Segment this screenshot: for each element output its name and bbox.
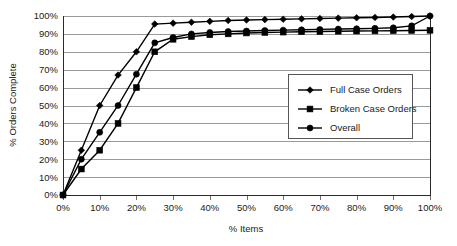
diamond-marker <box>353 14 360 21</box>
circle-marker <box>427 13 433 19</box>
diamond-marker <box>170 20 177 27</box>
y-tick-label: 40% <box>39 118 59 129</box>
diamond-marker <box>408 13 415 20</box>
circle-marker <box>335 26 341 32</box>
y-tick-labels-group: 0%10%20%30%40%50%60%70%80%90%100% <box>34 10 59 200</box>
x-tick-labels-group: 0%10%20%30%40%50%60%70%80%90%100% <box>56 202 443 213</box>
circle-marker <box>354 26 360 32</box>
x-tick-label: 20% <box>127 202 147 213</box>
y-tick-label: 10% <box>39 172 59 183</box>
circle-marker <box>280 27 286 33</box>
circle-marker <box>170 34 176 40</box>
diamond-marker <box>225 17 232 24</box>
circle-marker <box>317 26 323 32</box>
circle-marker <box>244 28 250 34</box>
diamond-marker <box>243 17 250 24</box>
circle-marker <box>299 27 305 33</box>
circle-marker <box>307 125 313 131</box>
x-tick-label: 50% <box>237 202 257 213</box>
line-chart: 0%10%20%30%40%50%60%70%80%90%100% 0%10%2… <box>0 0 457 246</box>
x-tick-label: 70% <box>310 202 330 213</box>
square-marker <box>307 106 313 112</box>
square-marker <box>97 147 103 153</box>
diamond-marker <box>372 14 379 21</box>
y-tick-label: 30% <box>39 136 59 147</box>
circle-marker <box>188 31 194 37</box>
circle-marker <box>409 23 415 29</box>
x-tick-label: 0% <box>56 202 70 213</box>
diamond-marker <box>78 147 85 154</box>
diamond-marker <box>188 19 195 26</box>
legend-label: Overall <box>330 122 360 133</box>
diamond-marker <box>390 14 397 21</box>
legend-label: Full Case Orders <box>330 84 402 95</box>
x-tick-label: 80% <box>347 202 367 213</box>
circle-marker <box>97 129 103 135</box>
legend: Full Case OrdersBroken Case OrdersOveral… <box>289 75 417 139</box>
legend-label: Broken Case Orders <box>330 103 417 114</box>
diamond-marker <box>207 18 214 25</box>
diamond-marker <box>335 15 342 22</box>
x-tick-label: 100% <box>418 202 443 213</box>
square-marker <box>134 85 140 91</box>
circle-marker <box>207 29 213 35</box>
y-tick-label: 90% <box>39 28 59 39</box>
x-tickmarks-group <box>64 196 431 200</box>
diamond-marker <box>262 16 269 23</box>
y-tick-label: 60% <box>39 82 59 93</box>
circle-marker <box>225 29 231 35</box>
circle-marker <box>60 192 66 198</box>
circle-marker <box>372 25 378 31</box>
circle-marker <box>78 156 84 162</box>
y-tick-label: 70% <box>39 64 59 75</box>
circle-marker <box>115 103 121 109</box>
square-marker <box>115 121 121 127</box>
circle-marker <box>262 27 268 33</box>
square-marker <box>78 166 84 172</box>
x-tick-label: 40% <box>200 202 220 213</box>
circle-marker <box>390 25 396 31</box>
diamond-marker <box>96 102 103 109</box>
y-tick-label: 0% <box>44 189 58 200</box>
x-tick-label: 10% <box>90 202 110 213</box>
x-tick-label: 30% <box>164 202 184 213</box>
x-axis-title: % Items <box>229 223 264 234</box>
y-tick-label: 50% <box>39 100 59 111</box>
square-marker <box>152 49 158 55</box>
y-tick-label: 20% <box>39 154 59 165</box>
circle-marker <box>133 71 139 77</box>
x-tick-label: 60% <box>274 202 294 213</box>
y-tick-label: 100% <box>34 10 59 21</box>
y-tick-label: 80% <box>39 46 59 57</box>
y-axis-title: % Orders Complete <box>7 63 18 146</box>
chart-container: 0%10%20%30%40%50%60%70%80%90%100% 0%10%2… <box>0 0 457 246</box>
square-marker <box>427 27 433 33</box>
circle-marker <box>152 40 158 46</box>
x-tick-label: 90% <box>384 202 404 213</box>
